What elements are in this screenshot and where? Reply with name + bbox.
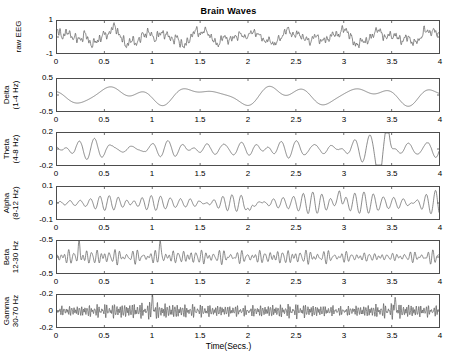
subplot-gamma <box>56 294 440 328</box>
x-tick-gamma-7: 3.5 <box>380 331 404 340</box>
x-axis-label: Time(Secs.) <box>0 341 457 351</box>
x-tick-delta-5: 2.5 <box>284 115 308 124</box>
y-axis-label-line: Delta <box>2 72 11 118</box>
subplot-raw-eeg <box>56 20 440 54</box>
x-tick-gamma-1: 0.5 <box>92 331 116 340</box>
y-tick-gamma-2: -0.2 <box>25 289 53 298</box>
x-tick-theta-8: 4 <box>428 169 452 178</box>
x-tick-alpha-0: 0 <box>44 223 68 232</box>
page-title: Brain Waves <box>0 6 457 16</box>
y-axis-label-line: Beta <box>2 234 11 280</box>
x-tick-delta-0: 0 <box>44 115 68 124</box>
x-tick-alpha-5: 2.5 <box>284 223 308 232</box>
x-tick-delta-3: 1.5 <box>188 115 212 124</box>
x-tick-alpha-8: 4 <box>428 223 452 232</box>
x-tick-raw-eeg-7: 3.5 <box>380 57 404 66</box>
x-tick-theta-5: 2.5 <box>284 169 308 178</box>
x-tick-raw-eeg-4: 2 <box>236 57 260 66</box>
x-tick-alpha-1: 0.5 <box>92 223 116 232</box>
trace-beta <box>56 240 440 274</box>
y-axis-label-line: Theta <box>2 126 11 172</box>
y-tick-beta-2: -0.5 <box>25 235 53 244</box>
y-tick-alpha-2: 0.1 <box>25 181 53 190</box>
y-tick-delta-1: 0 <box>25 90 53 99</box>
x-tick-alpha-3: 1.5 <box>188 223 212 232</box>
x-tick-theta-1: 0.5 <box>92 169 116 178</box>
y-axis-label-alpha: Alpha(8-12 Hz) <box>2 180 26 226</box>
subplot-theta <box>56 132 440 166</box>
y-axis-label-theta: Theta(4-8 Hz) <box>2 126 26 172</box>
y-tick-alpha-1: 0 <box>25 198 53 207</box>
x-tick-raw-eeg-5: 2.5 <box>284 57 308 66</box>
subplot-alpha <box>56 186 440 220</box>
y-axis-label-line: (1-4 Hz) <box>11 72 20 118</box>
x-tick-alpha-7: 3.5 <box>380 223 404 232</box>
x-tick-theta-4: 2 <box>236 169 260 178</box>
x-tick-theta-7: 3.5 <box>380 169 404 178</box>
x-tick-gamma-3: 1.5 <box>188 331 212 340</box>
x-tick-alpha-2: 1 <box>140 223 164 232</box>
x-tick-beta-8: 4 <box>428 277 452 286</box>
y-axis-label-line: Gamma <box>2 288 11 334</box>
x-tick-theta-3: 1.5 <box>188 169 212 178</box>
x-tick-beta-1: 0.5 <box>92 277 116 286</box>
trace-gamma <box>56 294 440 328</box>
x-tick-gamma-0: 0 <box>44 331 68 340</box>
x-tick-beta-2: 1 <box>140 277 164 286</box>
y-axis-label-delta: Delta(1-4 Hz) <box>2 72 26 118</box>
x-tick-raw-eeg-0: 0 <box>44 57 68 66</box>
x-tick-gamma-8: 4 <box>428 331 452 340</box>
x-tick-delta-4: 2 <box>236 115 260 124</box>
x-tick-raw-eeg-1: 0.5 <box>92 57 116 66</box>
y-axis-label-gamma: Gamma30-70 Hz <box>2 288 26 334</box>
y-tick-raw-eeg-2: 1 <box>25 15 53 24</box>
y-axis-label-line: (4-8 Hz) <box>11 126 20 172</box>
trace-raw-eeg <box>56 20 440 54</box>
subplot-delta <box>56 78 440 112</box>
y-tick-delta-2: 0.5 <box>25 73 53 82</box>
trace-alpha <box>56 186 440 220</box>
x-tick-raw-eeg-8: 4 <box>428 57 452 66</box>
y-axis-label-line: (8-12 Hz) <box>11 180 20 226</box>
y-tick-raw-eeg-1: 0 <box>25 32 53 41</box>
x-tick-raw-eeg-2: 1 <box>140 57 164 66</box>
x-tick-delta-1: 0.5 <box>92 115 116 124</box>
y-axis-label-beta: Beta12-30 Hz <box>2 234 26 280</box>
trace-delta <box>56 78 440 112</box>
x-tick-gamma-2: 1 <box>140 331 164 340</box>
x-tick-beta-6: 3 <box>332 277 356 286</box>
x-tick-delta-7: 3.5 <box>380 115 404 124</box>
y-tick-theta-1: 0 <box>25 144 53 153</box>
y-axis-label-line: 30-70 Hz <box>11 288 20 334</box>
y-axis-label-raw-eeg: raw EEG <box>14 14 23 60</box>
x-tick-alpha-4: 2 <box>236 223 260 232</box>
x-tick-delta-6: 3 <box>332 115 356 124</box>
y-tick-gamma-1: 0 <box>25 306 53 315</box>
x-tick-delta-2: 1 <box>140 115 164 124</box>
x-tick-beta-4: 2 <box>236 277 260 286</box>
x-tick-gamma-6: 3 <box>332 331 356 340</box>
x-tick-delta-8: 4 <box>428 115 452 124</box>
x-tick-theta-2: 1 <box>140 169 164 178</box>
y-tick-beta-1: 0 <box>25 252 53 261</box>
x-tick-raw-eeg-6: 3 <box>332 57 356 66</box>
y-axis-label-line: 12-30 Hz <box>11 234 20 280</box>
x-tick-gamma-4: 2 <box>236 331 260 340</box>
x-tick-theta-6: 3 <box>332 169 356 178</box>
x-tick-beta-0: 0 <box>44 277 68 286</box>
x-tick-beta-5: 2.5 <box>284 277 308 286</box>
trace-theta <box>56 132 440 166</box>
y-axis-label-line: Alpha <box>2 180 11 226</box>
x-tick-theta-0: 0 <box>44 169 68 178</box>
x-tick-beta-7: 3.5 <box>380 277 404 286</box>
y-tick-theta-2: 0.2 <box>25 127 53 136</box>
brain-waves-figure: Brain Waves Time(Secs.) -101raw EEG00.51… <box>0 0 457 360</box>
subplot-beta <box>56 240 440 274</box>
x-tick-beta-3: 1.5 <box>188 277 212 286</box>
x-tick-gamma-5: 2.5 <box>284 331 308 340</box>
x-tick-alpha-6: 3 <box>332 223 356 232</box>
x-tick-raw-eeg-3: 1.5 <box>188 57 212 66</box>
